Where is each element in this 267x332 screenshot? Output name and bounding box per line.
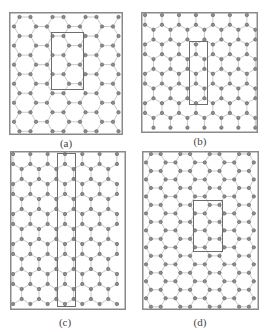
lattice-c: [10, 151, 126, 310]
lattice-a: [9, 12, 123, 135]
lattice-d: [142, 151, 259, 310]
panel-c: [10, 151, 126, 310]
panel-label-d: (d): [180, 316, 220, 328]
panel-a: [9, 12, 123, 135]
panel-label-a: (a): [46, 137, 86, 149]
panel-b: [141, 12, 258, 133]
panel-label-c: (c): [45, 316, 85, 328]
panel-label-b: (b): [180, 135, 220, 147]
panel-d: [142, 151, 259, 310]
lattice-b: [141, 12, 258, 133]
